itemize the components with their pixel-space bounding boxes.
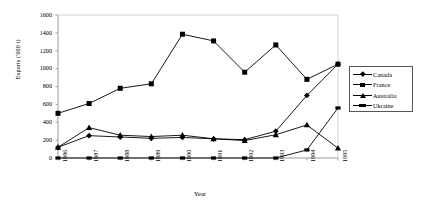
y-tick-label: 600 xyxy=(22,101,52,107)
square-marker-icon xyxy=(353,80,372,89)
x-tick-label: 1988 xyxy=(123,150,130,162)
x-tick-label: 1987 xyxy=(92,150,99,162)
x-tick-label: 1995 xyxy=(341,150,348,162)
series-line xyxy=(58,108,338,158)
series-line xyxy=(58,64,338,147)
x-tick-label: 1989 xyxy=(154,150,161,162)
y-axis-title: Exports ('000 t) xyxy=(14,5,21,115)
square-marker-icon xyxy=(273,42,278,47)
y-tick-label: 200 xyxy=(22,137,52,143)
chart-legend: Canada France Australia Ukraine xyxy=(349,66,413,112)
legend-label: Ukraine xyxy=(373,102,394,109)
chart-figure: Exports ('000 t) Year 160014001200100080… xyxy=(0,0,429,208)
dash-marker-icon xyxy=(335,106,340,109)
x-tick-label: 1991 xyxy=(216,150,223,162)
x-tick-label: 1990 xyxy=(185,150,192,162)
square-marker-icon xyxy=(304,77,309,82)
y-tick-label: 1400 xyxy=(22,30,52,36)
y-tick-label: 1600 xyxy=(22,12,52,18)
dash-marker-icon xyxy=(87,156,92,159)
triangle-marker-icon xyxy=(304,122,310,128)
square-marker-icon xyxy=(180,32,185,37)
square-marker-icon xyxy=(211,38,216,43)
y-tick-label: 400 xyxy=(22,119,52,125)
legend-item-canada: Canada xyxy=(353,69,412,80)
x-tick-label: 1992 xyxy=(247,150,254,162)
x-tick-label: 1993 xyxy=(278,150,285,162)
square-marker-icon xyxy=(56,111,61,116)
y-tick-label: 0 xyxy=(22,155,52,161)
diamond-marker-icon xyxy=(86,133,92,139)
square-marker-icon xyxy=(118,86,123,91)
triangle-marker-icon xyxy=(86,125,92,131)
series-france xyxy=(56,32,341,116)
series-line xyxy=(58,34,338,113)
legend-item-ukraine: Ukraine xyxy=(353,101,412,112)
x-axis-title: Year xyxy=(150,190,250,197)
diamond-marker-icon xyxy=(353,70,372,79)
square-marker-icon xyxy=(336,62,341,67)
legend-item-france: France xyxy=(353,80,412,91)
square-marker-icon xyxy=(242,70,247,75)
x-tick-label: 1986 xyxy=(61,150,68,162)
y-tick-label: 800 xyxy=(22,83,52,89)
legend-label: France xyxy=(373,81,390,88)
square-marker-icon xyxy=(149,81,154,86)
x-tick-label: 1994 xyxy=(309,150,316,162)
triangle-marker-icon xyxy=(353,91,372,100)
y-tick-label: 1000 xyxy=(22,65,52,71)
y-tick-label: 1200 xyxy=(22,48,52,54)
legend-label: Canada xyxy=(373,71,392,78)
legend-item-australia: Australia xyxy=(353,90,412,101)
legend-label: Australia xyxy=(373,92,397,99)
dash-marker-icon xyxy=(55,156,60,159)
dash-marker-icon xyxy=(353,101,372,110)
square-marker-icon xyxy=(87,101,92,106)
